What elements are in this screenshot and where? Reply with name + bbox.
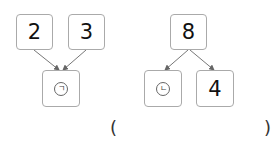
answer-close-paren: ) bbox=[264, 117, 271, 138]
box-left-bottom-giyeok: ㄱ bbox=[42, 70, 80, 107]
box-left-top-2: 2 bbox=[16, 14, 53, 50]
box-right-top-8: 8 bbox=[170, 14, 207, 50]
number-4: 4 bbox=[208, 77, 221, 101]
number-8: 8 bbox=[182, 20, 195, 44]
box-right-bottom-nieun: ㄴ bbox=[144, 70, 182, 107]
number-2: 2 bbox=[28, 20, 41, 44]
answer-open-paren: ( bbox=[110, 117, 117, 138]
box-right-bottom-4: 4 bbox=[196, 70, 234, 107]
circled-giyeok-label: ㄱ bbox=[54, 82, 68, 96]
circled-nieun-label: ㄴ bbox=[156, 82, 170, 96]
number-3: 3 bbox=[80, 20, 93, 44]
box-left-top-3: 3 bbox=[68, 14, 105, 50]
answer-blank[interactable] bbox=[125, 118, 260, 138]
